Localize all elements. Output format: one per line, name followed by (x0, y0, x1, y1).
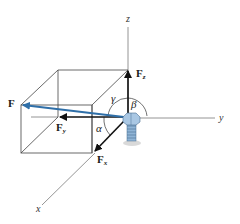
y-axis-label: y (219, 113, 223, 123)
x-axis-label: x (36, 204, 40, 214)
alpha-label: α (96, 123, 102, 134)
x-axis (42, 153, 95, 205)
f-resultant-label: F (8, 98, 15, 109)
alpha-arc (104, 117, 110, 135)
gamma-label: γ (111, 93, 115, 104)
fy-label: Fy (56, 122, 66, 135)
bolt-icon (123, 113, 141, 146)
fz-label: Fz (136, 68, 145, 81)
diagram-canvas (0, 0, 240, 224)
beta-label: β (131, 99, 136, 110)
force-diagram: z y x F Fz Fy Fx γ β α (0, 0, 240, 224)
z-axis-label: z (126, 14, 130, 24)
fx-label: Fx (97, 154, 107, 167)
